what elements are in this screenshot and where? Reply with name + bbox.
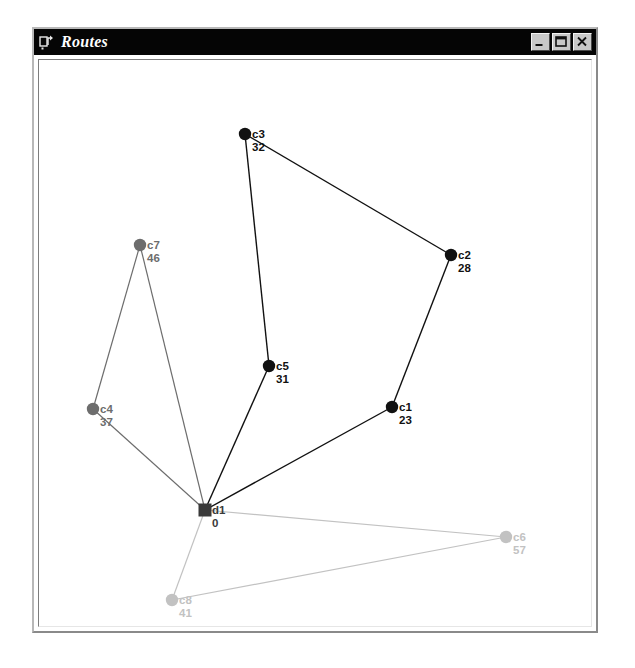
node-value-label: 41 [179, 607, 192, 619]
customer-marker[interactable] [445, 249, 457, 261]
app-window-icon [39, 34, 56, 51]
route-edge [172, 510, 205, 600]
customer-marker[interactable] [263, 360, 275, 372]
node-value-label: 32 [252, 141, 265, 153]
customer-marker[interactable] [386, 401, 398, 413]
window-titlebar[interactable]: Routes [34, 29, 596, 55]
close-button[interactable] [573, 33, 592, 51]
screenshot-root: Routes [0, 0, 635, 668]
node-value-label: 28 [458, 262, 471, 274]
route-edge [205, 366, 269, 510]
node-id-label: c4 [100, 403, 113, 415]
node-c1[interactable]: c123 [386, 401, 413, 426]
node-value-label: 31 [276, 373, 289, 385]
node-value-label: 37 [100, 416, 113, 428]
node-d1[interactable]: d10 [199, 504, 227, 530]
node-value-label: 0 [212, 517, 218, 529]
routes-plot: d10c123c228c332c531c437c746c657c841 [39, 60, 592, 627]
node-c3[interactable]: c332 [239, 128, 265, 153]
node-id-label: c6 [513, 531, 526, 543]
minimize-button[interactable] [531, 33, 550, 51]
customer-marker[interactable] [500, 531, 512, 543]
node-id-label: c5 [276, 360, 289, 372]
node-value-label: 46 [147, 252, 160, 264]
customer-marker[interactable] [166, 594, 178, 606]
routes-window: Routes [32, 27, 598, 633]
node-id-label: c8 [179, 594, 192, 606]
route-edges-layer [93, 134, 506, 600]
customer-marker[interactable] [239, 128, 251, 140]
node-c6[interactable]: c657 [500, 531, 526, 556]
route-edge [245, 134, 451, 255]
route-1 [205, 134, 451, 510]
customer-marker[interactable] [134, 239, 146, 251]
node-id-label: c1 [399, 401, 412, 413]
node-id-label: c2 [458, 249, 471, 261]
window-title: Routes [61, 33, 531, 51]
route-edge [245, 134, 269, 366]
route-edge [205, 407, 392, 510]
route-edge [205, 510, 506, 537]
route-edge [140, 245, 205, 510]
node-id-label: c3 [252, 128, 265, 140]
node-c8[interactable]: c841 [166, 594, 193, 619]
node-id-label: d1 [212, 504, 226, 516]
route-edge [93, 245, 140, 409]
window-controls [531, 33, 592, 51]
node-c4[interactable]: c437 [87, 403, 114, 428]
routes-canvas-area: d10c123c228c332c531c437c746c657c841 [38, 59, 592, 627]
depot-marker[interactable] [199, 504, 212, 517]
route-2 [93, 245, 205, 510]
route-edge [392, 255, 451, 407]
node-id-label: c7 [147, 239, 160, 251]
node-value-label: 57 [513, 544, 526, 556]
route-edge [172, 537, 506, 600]
route-3 [172, 510, 506, 600]
maximize-button[interactable] [552, 33, 571, 51]
customer-marker[interactable] [87, 403, 99, 415]
node-value-label: 23 [399, 414, 412, 426]
